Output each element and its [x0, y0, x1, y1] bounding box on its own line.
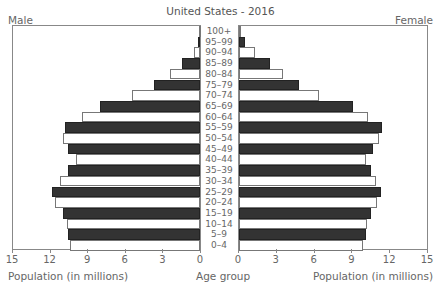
male-bar: [154, 80, 200, 91]
male-bar: [67, 219, 200, 230]
male-bar: [70, 240, 200, 251]
male-bar: [68, 144, 200, 155]
male-tick-label: 9: [77, 254, 97, 265]
tick-mark: [314, 249, 315, 253]
male-x-axis-title: Population (in millions): [8, 270, 128, 282]
male-bar: [63, 208, 200, 219]
age-group-label: 5–9: [200, 229, 238, 240]
female-bar: [239, 219, 367, 230]
male-bar: [100, 101, 200, 112]
female-bar: [239, 187, 381, 198]
male-bar: [76, 154, 200, 165]
tick-mark: [389, 249, 390, 253]
age-group-label: 20–24: [200, 197, 238, 208]
tick-mark: [87, 249, 88, 253]
female-bar: [239, 154, 366, 165]
female-bar: [239, 240, 363, 251]
age-group-label: 40–44: [200, 154, 238, 165]
age-group-label: 60–64: [200, 112, 238, 123]
chart-title: United States - 2016: [0, 5, 441, 17]
female-x-axis-title: Population (in millions): [313, 270, 433, 282]
female-tick-label: 3: [266, 254, 286, 265]
tick-mark: [162, 249, 163, 253]
male-bar: [65, 122, 200, 133]
male-bar: [182, 58, 200, 69]
age-group-label: 45–49: [200, 144, 238, 155]
female-tick-label: 0: [228, 254, 248, 265]
male-bar: [82, 112, 200, 123]
age-group-label: 15–19: [200, 208, 238, 219]
female-tick-label: 9: [341, 254, 361, 265]
age-group-label: 10–14: [200, 219, 238, 230]
tick-mark: [276, 249, 277, 253]
age-group-label: 50–54: [200, 133, 238, 144]
female-tick-label: 12: [379, 254, 399, 265]
female-bar: [239, 37, 245, 48]
tick-mark: [50, 249, 51, 253]
age-group-label: 35–39: [200, 165, 238, 176]
male-tick-label: 6: [115, 254, 135, 265]
female-bar: [239, 229, 366, 240]
female-bar: [239, 144, 373, 155]
age-group-label: 55–59: [200, 122, 238, 133]
male-bar: [52, 187, 200, 198]
male-tick-label: 3: [152, 254, 172, 265]
tick-mark: [351, 249, 352, 253]
male-bar: [63, 133, 200, 144]
age-group-label: 90–94: [200, 47, 238, 58]
age-group-label: 0–4: [200, 240, 238, 251]
female-bar: [239, 112, 368, 123]
tick-mark: [12, 249, 13, 253]
female-bar: [239, 101, 353, 112]
male-tick-label: 12: [40, 254, 60, 265]
female-tick-label: 15: [417, 254, 437, 265]
male-bar: [68, 229, 200, 240]
age-group-label: 30–34: [200, 176, 238, 187]
female-bar: [239, 133, 379, 144]
female-bar: [239, 69, 283, 80]
female-bar: [239, 90, 319, 101]
tick-mark: [238, 249, 239, 253]
age-group-label: 70–74: [200, 90, 238, 101]
age-group-label: 85–89: [200, 58, 238, 69]
female-bar: [239, 197, 377, 208]
female-bar: [239, 26, 241, 37]
tick-mark: [125, 249, 126, 253]
age-group-label: 65–69: [200, 101, 238, 112]
female-bar: [239, 122, 382, 133]
female-tick-label: 6: [304, 254, 324, 265]
female-bar: [239, 58, 270, 69]
male-bar: [68, 165, 200, 176]
male-tick-label: 15: [2, 254, 22, 265]
age-group-label: 75–79: [200, 80, 238, 91]
age-group-label: 25–29: [200, 187, 238, 198]
female-bar: [239, 80, 299, 91]
male-bar: [132, 90, 200, 101]
female-bar: [239, 176, 376, 187]
female-bar: [239, 165, 371, 176]
age-group-axis-title: Age group: [196, 270, 250, 282]
tick-mark: [427, 249, 428, 253]
tick-mark: [200, 249, 201, 253]
age-group-label: 100+: [200, 26, 238, 37]
male-bar: [55, 197, 200, 208]
male-bar: [170, 69, 200, 80]
age-group-label: 95–99: [200, 37, 238, 48]
age-group-label: 80–84: [200, 69, 238, 80]
male-tick-label: 0: [190, 254, 210, 265]
male-bar: [60, 176, 200, 187]
female-bar: [239, 208, 371, 219]
female-bar: [239, 47, 255, 58]
